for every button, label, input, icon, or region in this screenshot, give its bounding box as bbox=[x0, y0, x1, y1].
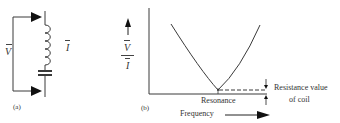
frequency-arrow-head bbox=[257, 111, 270, 119]
dim-arrow-down bbox=[264, 85, 268, 89]
resistance-annotation-line2: of coil bbox=[289, 96, 310, 104]
y-axis-denominator: I bbox=[126, 61, 129, 71]
voltage-symbol: V bbox=[5, 47, 11, 57]
current-symbol: I bbox=[66, 43, 69, 53]
panel-b-label: (b) bbox=[141, 105, 149, 112]
y-axis-numerator: V bbox=[124, 43, 130, 53]
panel-a-label: (a) bbox=[13, 104, 21, 111]
dim-arrow-up bbox=[264, 95, 268, 99]
impedance-curve bbox=[171, 24, 260, 90]
current-bar bbox=[65, 40, 70, 41]
voltage-bar bbox=[6, 44, 12, 45]
top-arrow-head bbox=[31, 12, 42, 22]
y-fraction-line bbox=[121, 55, 134, 56]
resistance-annotation-line1: Resistance value bbox=[274, 84, 328, 92]
y-denominator-bar bbox=[125, 58, 130, 59]
bottom-arrow-head bbox=[31, 86, 42, 96]
frequency-label: Frequency bbox=[180, 110, 214, 118]
impedance-plot bbox=[125, 8, 270, 119]
y-numerator-bar bbox=[124, 40, 130, 41]
y-axis-arrow-head bbox=[125, 18, 131, 27]
resonance-label: Resonance bbox=[201, 97, 236, 105]
circuit-diagram bbox=[13, 11, 52, 97]
inductor-coil-icon bbox=[45, 25, 50, 65]
